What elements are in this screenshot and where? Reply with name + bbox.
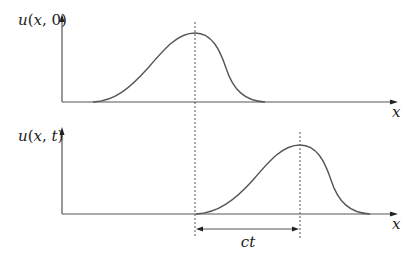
bottom-x-label: x [392,215,401,233]
top-x-label: x [392,103,401,121]
top-y-label: u(x, 0) [18,11,67,29]
top-plot: u(x, 0) x [18,11,401,121]
bottom-wave-curve [196,145,370,214]
shift-label: ct [241,233,256,251]
wave-shift-diagram: u(x, 0) x u(x, t) x ct [0,0,414,254]
bottom-plot: u(x, t) x [18,127,401,233]
shift-dimension: ct [196,227,299,252]
top-wave-curve [93,33,265,102]
bottom-y-label: u(x, t) [18,127,63,145]
shift-right-arrow-icon [292,227,299,232]
shift-left-arrow-icon [196,227,203,232]
